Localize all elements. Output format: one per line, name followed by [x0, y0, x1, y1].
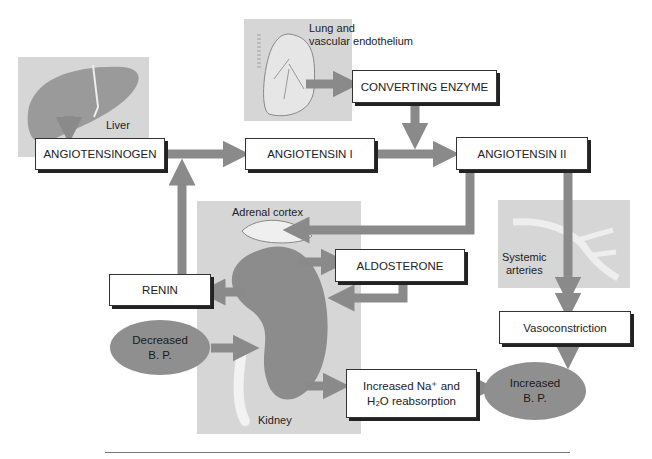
- angiotensin2-to-adrenal-arrow: [296, 172, 470, 230]
- vasoconstriction-box: Vasoconstriction: [499, 311, 631, 344]
- increased-bp-oval: Increased B. P.: [484, 362, 586, 420]
- bottom-divider: [105, 452, 570, 453]
- angiotensinogen-box: ANGIOTENSINOGEN: [35, 138, 165, 170]
- aldosterone-box: ALDOSTERONE: [335, 249, 465, 282]
- renin-box: RENIN: [109, 274, 211, 306]
- aldosterone-to-kidney-arrow: [341, 282, 403, 298]
- reabsorption-box: Increased Na⁺ and H₂O reabsorption: [346, 369, 477, 418]
- angiotensin-i-box: ANGIOTENSIN I: [245, 138, 375, 170]
- converting-enzyme-box: CONVERTING ENZYME: [352, 70, 497, 103]
- decreased-bp-oval: Decreased B. P.: [110, 320, 210, 375]
- angiotensin-ii-box: ANGIOTENSIN II: [456, 137, 588, 170]
